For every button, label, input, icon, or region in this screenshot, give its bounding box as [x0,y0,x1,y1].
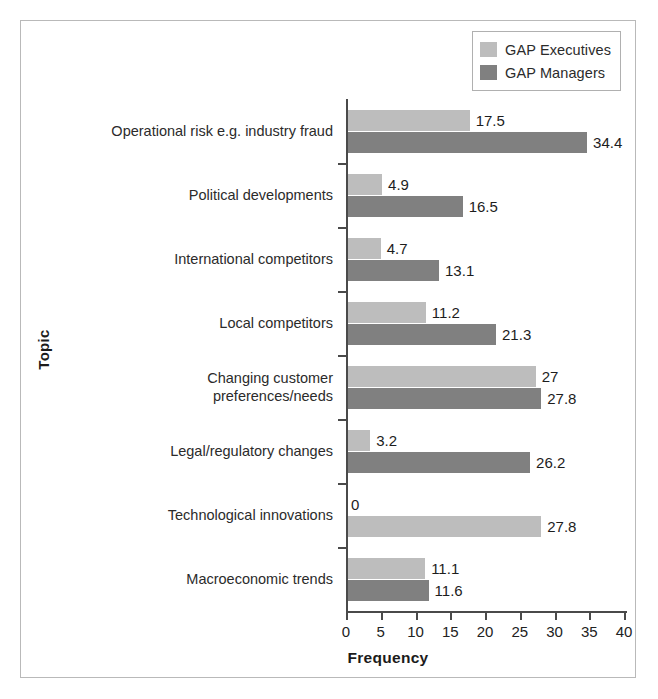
y-axis-tick [338,163,346,165]
x-axis-tick-label: 5 [377,623,385,640]
y-axis-category-label: Operational risk e.g. industry fraud [43,122,333,140]
bar-value-label: 27.8 [547,518,576,535]
bar-value-label: 27.8 [547,390,576,407]
chart-bar-executives: 4.9 [348,174,382,195]
bar-fill [348,238,381,259]
x-axis-tick [416,611,418,620]
y-axis-tick [338,419,346,421]
bar-value-label: 16.5 [469,198,498,215]
x-axis-title: Frequency [21,649,635,667]
x-axis-tick [381,611,383,620]
chart-bar-managers: 34.4 [348,132,587,153]
x-axis-tick-label: 20 [477,623,494,640]
bar-fill [348,174,382,195]
y-axis-tick [338,547,346,549]
y-axis-title-text: Topic [35,329,52,369]
x-axis-tick [555,611,557,620]
bar-fill [348,324,496,345]
y-axis-category-label: Changing customer preferences/needs [43,369,333,405]
x-axis-tick-label: 30 [546,623,563,640]
chart-bar-executives: 27 [348,366,536,387]
x-axis-tick-label: 0 [342,623,350,640]
bar-value-label: 0 [351,496,359,513]
y-axis-category-label: Macroeconomic trends [43,570,333,588]
x-axis-tick-label: 15 [442,623,459,640]
chart-bar-executives: 17.5 [348,110,470,131]
bar-value-label: 34.4 [593,134,622,151]
legend-swatch-executives [480,42,497,57]
x-axis-tick [450,611,452,620]
bar-value-label: 11.2 [432,304,460,321]
bar-value-label: 26.2 [536,454,565,471]
x-axis-tick-label: 35 [581,623,598,640]
chart-bar-managers: 13.1 [348,260,439,281]
bar-value-label: 11.1 [431,560,459,577]
legend-item-executives: GAP Executives [480,38,611,61]
bar-fill [348,110,470,131]
bar-value-label: 4.7 [387,240,408,257]
bar-fill [348,132,587,153]
chart-category-group: Macroeconomic trends11.111.6 [346,547,627,611]
chart-bar-managers: 26.2 [348,452,530,473]
bar-value-label: 11.6 [435,582,463,599]
chart-bar-managers: 27.8 [348,516,541,537]
bar-fill [348,580,429,601]
chart-category-group: Changing customer preferences/needs2727.… [346,355,627,419]
bar-value-label: 4.9 [388,176,409,193]
chart-category-group: International competitors4.713.1 [346,227,627,291]
chart-category-group: Operational risk e.g. industry fraud17.5… [346,99,627,163]
x-axis-tick [346,611,348,620]
bar-value-label: 3.2 [376,432,397,449]
chart-category-group: Local competitors11.221.3 [346,291,627,355]
y-axis-tick [338,483,346,485]
chart-category-group: Legal/regulatory changes3.226.2 [346,419,627,483]
bar-value-label: 13.1 [445,262,474,279]
y-axis-category-label: Legal/regulatory changes [43,442,333,460]
chart-bar-managers: 11.6 [348,580,429,601]
chart-bar-managers: 21.3 [348,324,496,345]
chart-bar-executives: 11.1 [348,558,425,579]
x-axis-tick [589,611,591,620]
bar-fill [348,366,536,387]
legend-label-executives: GAP Executives [505,42,611,58]
x-axis-title-text: Frequency [347,649,428,666]
y-axis-category-label: Technological innovations [43,506,333,524]
chart-bar-managers: 27.8 [348,388,541,409]
y-axis-tick [338,355,346,357]
bar-value-label: 21.3 [502,326,531,343]
bar-fill [348,302,426,323]
bar-fill [348,196,463,217]
chart-bar-managers: 16.5 [348,196,463,217]
bar-fill [348,452,530,473]
bar-value-label: 27 [542,368,559,385]
legend-item-managers: GAP Managers [480,61,611,84]
bar-fill [348,430,370,451]
chart-category-group: Technological innovations027.8 [346,483,627,547]
chart-legend: GAP Executives GAP Managers [472,31,621,91]
chart-bar-executives: 3.2 [348,430,370,451]
chart-bar-executives: 11.2 [348,302,426,323]
x-axis-tick [520,611,522,620]
bar-fill [348,558,425,579]
y-axis-category-label: Political developments [43,186,333,204]
bar-fill [348,516,541,537]
y-axis-category-label: Local competitors [43,314,333,332]
x-axis-tick-label: 25 [511,623,528,640]
y-axis-tick [338,227,346,229]
bar-value-label: 17.5 [476,112,505,129]
legend-swatch-managers [480,65,497,80]
chart-category-group: Political developments4.916.5 [346,163,627,227]
y-axis-category-label: International competitors [43,250,333,268]
chart-bar-executives: 4.7 [348,238,381,259]
chart-figure: GAP Executives GAP Managers Topic 051015… [20,20,636,678]
y-axis-tick [338,291,346,293]
bar-fill [348,260,439,281]
x-axis-tick [624,611,626,620]
x-axis-tick-label: 10 [407,623,424,640]
legend-label-managers: GAP Managers [505,65,605,81]
bar-fill [348,388,541,409]
plot-area: 0510152025303540Operational risk e.g. in… [346,99,627,611]
x-axis-tick-label: 40 [616,623,633,640]
x-axis-tick [485,611,487,620]
